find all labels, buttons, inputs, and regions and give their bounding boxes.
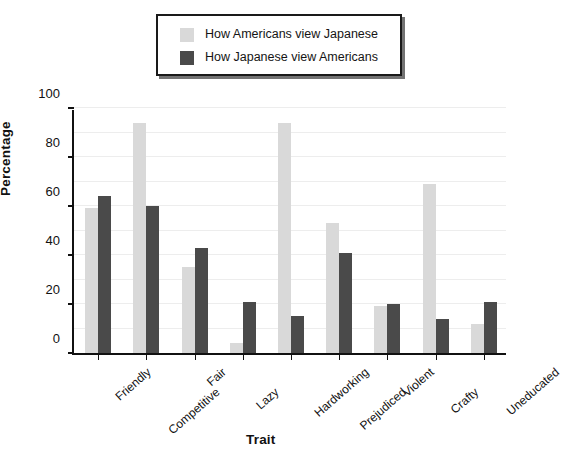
bar-group xyxy=(219,110,267,353)
x-tick-label: Crafty xyxy=(448,385,481,417)
x-tick-label: Uneducated xyxy=(504,365,562,418)
bar xyxy=(195,248,208,353)
y-tick-mark xyxy=(68,107,74,109)
bar xyxy=(133,123,146,353)
x-tick-label: Violent xyxy=(400,365,437,400)
y-axis-title: Percentage xyxy=(0,121,13,196)
legend-item-japanese-view-americans: How Japanese view Americans xyxy=(180,46,400,69)
bar xyxy=(85,208,98,353)
x-tick-mark xyxy=(243,353,244,360)
bar xyxy=(436,319,449,353)
x-axis-title: Trait xyxy=(246,432,276,447)
x-tick-mark xyxy=(484,353,485,360)
x-tick-label: Competitive xyxy=(166,385,223,437)
bar-group xyxy=(122,110,170,353)
gridline xyxy=(74,107,506,108)
bar-group xyxy=(267,110,315,353)
y-tick-label: 40 xyxy=(30,233,60,248)
x-tick-label: Friendly xyxy=(113,365,154,404)
bar xyxy=(98,196,111,353)
bar xyxy=(182,267,195,353)
y-tick-label: 60 xyxy=(30,184,60,199)
legend-swatch-japanese-view-americans xyxy=(180,51,194,65)
x-tick-mark xyxy=(387,353,388,360)
bar xyxy=(484,302,497,353)
x-tick-mark xyxy=(291,353,292,360)
bar xyxy=(243,302,256,353)
plot-area: 020406080100 FriendlyCompetitiveFairLazy… xyxy=(72,110,506,355)
legend-item-americans-view-japanese: How Americans view Japanese xyxy=(180,23,400,46)
x-tick-label: Lazy xyxy=(253,385,281,412)
bar-group xyxy=(170,110,218,353)
bar xyxy=(387,304,400,353)
x-tick-mark xyxy=(98,353,99,360)
legend-label-americans-view-japanese: How Americans view Japanese xyxy=(205,28,378,41)
bar xyxy=(374,306,387,353)
bar xyxy=(230,343,243,353)
y-tick-label: 0 xyxy=(30,331,60,346)
x-tick-mark xyxy=(195,353,196,360)
bar xyxy=(339,253,352,353)
x-tick-mark xyxy=(436,353,437,360)
legend-swatch-americans-view-japanese xyxy=(180,28,194,42)
bar-group xyxy=(412,110,460,353)
legend-label-japanese-view-americans: How Japanese view Americans xyxy=(205,51,378,64)
bar xyxy=(471,324,484,353)
bar-group xyxy=(460,110,508,353)
chart-legend: How Americans view Japanese How Japanese… xyxy=(156,14,402,76)
bar xyxy=(291,316,304,353)
bar-group xyxy=(74,110,122,353)
x-tick-mark xyxy=(339,353,340,360)
x-tick-label: Hardworking xyxy=(312,365,372,420)
bar xyxy=(146,206,159,353)
bar xyxy=(326,223,339,353)
y-tick-label: 20 xyxy=(30,282,60,297)
y-tick-label: 100 xyxy=(30,86,60,101)
bar-group xyxy=(363,110,411,353)
x-tick-mark xyxy=(146,353,147,360)
bar xyxy=(278,123,291,353)
bar xyxy=(423,184,436,353)
x-tick-label: Fair xyxy=(204,365,229,389)
bar-group xyxy=(315,110,363,353)
y-tick-label: 80 xyxy=(30,135,60,150)
x-tick-label: Prejudiced xyxy=(357,385,409,433)
